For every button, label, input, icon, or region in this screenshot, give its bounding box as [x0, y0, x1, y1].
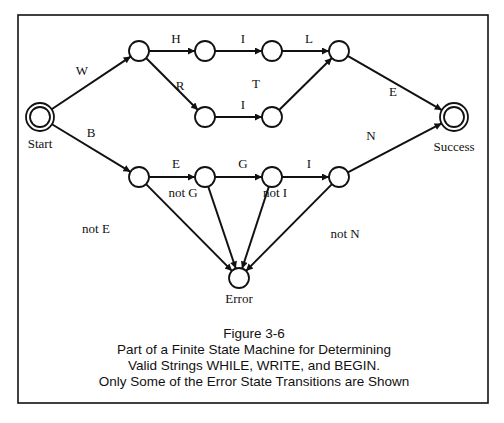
- transition-label: not E: [82, 221, 110, 236]
- transition-label: R: [176, 78, 185, 93]
- transition-labels-layer: WHILRITEBEGINnot Enot Gnot Inot N: [76, 31, 397, 241]
- transition-label: T: [252, 76, 260, 91]
- transition-label: H: [171, 31, 180, 46]
- fsm-diagram: StartSuccessError WHILRITEBEGINnot Enot …: [0, 0, 504, 423]
- state-whil: [329, 41, 349, 61]
- state-circle: [195, 167, 215, 187]
- state-circle: [129, 41, 149, 61]
- state-circle: [262, 41, 282, 61]
- transition-label: G: [238, 156, 247, 171]
- state-circle: [195, 107, 215, 127]
- state-begi: [329, 167, 349, 187]
- state-start: Start: [26, 103, 54, 151]
- state-error: Error: [225, 268, 253, 306]
- state-be: [195, 167, 215, 187]
- state-label-start: Start: [28, 136, 53, 151]
- transition-label: N: [366, 128, 376, 143]
- state-circle: [195, 41, 215, 61]
- state-wh: [195, 41, 215, 61]
- state-circle: [329, 41, 349, 61]
- transition-label: E: [389, 84, 397, 99]
- figure-title: Figure 3-6: [223, 326, 285, 341]
- transition-arrow-begi-success: [348, 123, 442, 172]
- transition-arrow-w-wr: [146, 58, 198, 110]
- transition-label: not I: [263, 185, 287, 200]
- state-inner-ring: [30, 107, 50, 127]
- transition-label: W: [76, 63, 89, 78]
- state-whi: [262, 41, 282, 61]
- transition-arrow-whil-success: [348, 56, 442, 110]
- transition-label: I: [241, 31, 245, 46]
- transition-arrow-be-error: [208, 186, 236, 268]
- state-success: Success: [433, 103, 474, 154]
- state-inner-ring: [444, 107, 464, 127]
- state-circle: [129, 167, 149, 187]
- transition-arrow-begi-error: [246, 184, 332, 271]
- state-circle: [229, 268, 249, 288]
- transition-label: E: [172, 156, 180, 171]
- caption-line-1: Part of a Finite State Machine for Deter…: [117, 342, 391, 357]
- caption-line-3: Only Some of the Error State Transitions…: [99, 374, 410, 389]
- transition-arrow-start-w: [52, 57, 131, 110]
- transition-label: not N: [330, 226, 360, 241]
- transition-label: B: [87, 125, 96, 140]
- state-wr: [195, 107, 215, 127]
- state-wri: [262, 107, 282, 127]
- transition-arrow-wri-whil: [279, 58, 332, 110]
- state-circle: [262, 107, 282, 127]
- transition-label: I: [307, 156, 311, 171]
- caption-line-2: Valid Strings WHILE, WRITE, and BEGIN.: [128, 358, 380, 373]
- state-beg: [262, 167, 282, 187]
- transition-label: L: [305, 31, 313, 46]
- state-w: [129, 41, 149, 61]
- state-circle: [262, 167, 282, 187]
- state-label-success: Success: [433, 139, 474, 154]
- transition-label: I: [241, 97, 245, 112]
- state-b: [129, 167, 149, 187]
- state-circle: [329, 167, 349, 187]
- state-label-error: Error: [225, 291, 253, 306]
- transition-label: not G: [168, 185, 197, 200]
